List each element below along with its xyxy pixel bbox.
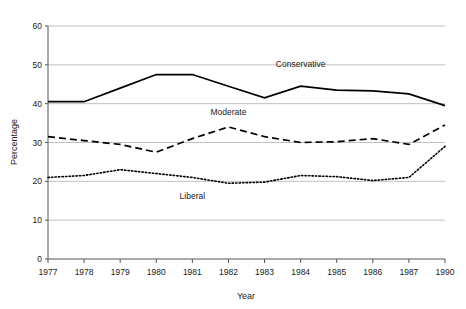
y-tick-label: 50 [33,60,43,70]
x-tick-label: 1982 [219,267,238,277]
series-line-conservative [48,75,445,106]
y-tick-label: 10 [33,215,43,225]
gridlines [48,26,445,220]
x-tick-marks [48,259,445,263]
y-tick-label: 20 [33,176,43,186]
line-chart: 0102030405060 19771978197919801981198219… [0,0,466,309]
x-tick-label: 1977 [39,267,58,277]
x-tick-label: 1990 [436,267,455,277]
x-tick-label: 1983 [255,267,274,277]
series-line-moderate [48,125,445,152]
x-tick-labels: 1977197819791980198119821983198419851986… [39,267,455,277]
x-tick-label: 1986 [363,267,382,277]
series-label-liberal: Liberal [180,191,206,201]
series-label-conservative: Conservative [276,59,326,69]
x-tick-label: 1981 [183,267,202,277]
y-tick-label: 60 [33,21,43,31]
series-line-liberal [48,146,445,183]
y-tick-label: 30 [33,138,43,148]
x-tick-label: 1987 [399,267,418,277]
y-tick-label: 0 [37,254,42,264]
x-tick-label: 1985 [327,267,346,277]
x-tick-label: 1984 [291,267,310,277]
series-label-moderate: Moderate [210,107,246,117]
y-axis-title: Percentage [9,119,19,165]
x-tick-label: 1978 [75,267,94,277]
x-tick-label: 1979 [111,267,130,277]
y-tick-label: 40 [33,99,43,109]
x-tick-label: 1980 [147,267,166,277]
y-tick-labels: 0102030405060 [33,21,43,264]
chart-canvas: 0102030405060 19771978197919801981198219… [0,0,466,309]
x-axis-title: Year [237,291,255,301]
